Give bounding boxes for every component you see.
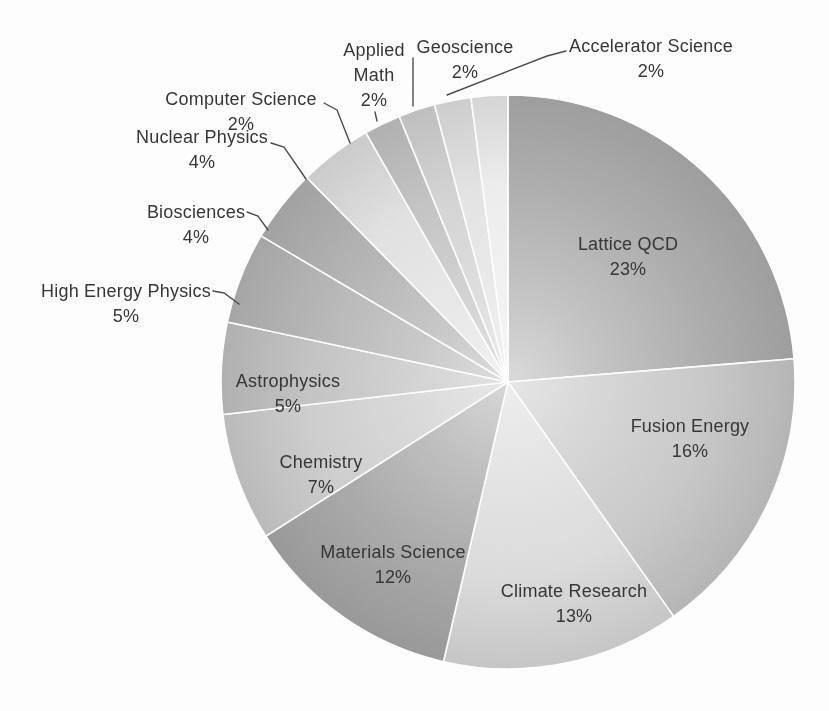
scanned-pie-chart-page: Lattice QCD23%Fusion Energy16%Climate Re…: [0, 0, 829, 711]
pie-chart: Lattice QCD23%Fusion Energy16%Climate Re…: [0, 0, 829, 711]
